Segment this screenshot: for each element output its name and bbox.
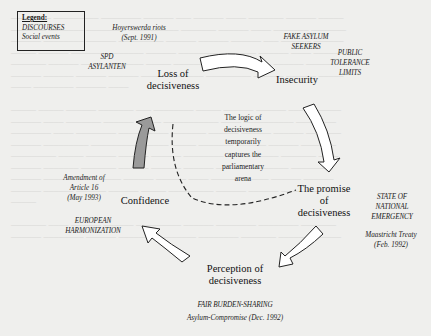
annotation-line: Amendment of	[56, 173, 112, 183]
annotation-line: EUROPEAN	[55, 216, 131, 226]
annotation-line: (May 1993)	[56, 193, 112, 203]
center-line: arena	[205, 173, 281, 185]
node-text: decisiveness	[200, 275, 270, 287]
legend-title: Legend:	[22, 14, 80, 24]
discourse-spd-asylanten: SPD ASYLANTEN	[82, 52, 132, 72]
center-caption: The logic of decisiveness temporarily ca…	[205, 112, 281, 185]
arrow-perception-to-confidence	[142, 226, 190, 262]
annotation-line: (Sept. 1991)	[104, 33, 174, 43]
annotation-line: EMERGENCY	[362, 212, 422, 222]
legend-box: Legend: DISCOURSES Social events	[17, 11, 85, 51]
center-line: temporarily	[205, 136, 281, 148]
node-text: Insecurity	[270, 74, 324, 86]
legend-item-social-events: Social events	[22, 33, 80, 43]
node-text: Loss of	[142, 68, 204, 80]
discourse-state-of-national-emergency: STATE OF NATIONAL EMERGENCY	[362, 192, 422, 222]
annotation-line: Hoyerswerda riots	[104, 23, 174, 33]
arrow-promise-to-perception	[279, 226, 323, 267]
arrow-insecurity-to-promise	[303, 104, 340, 172]
discourse-public-tolerance-limits: PUBLIC TOLERANCE LIMITS	[318, 48, 382, 78]
node-text: The promise	[292, 183, 356, 195]
legend-item-discourses: DISCOURSES	[22, 24, 80, 34]
annotation-line: TOLERANCE	[318, 58, 382, 68]
center-line: parliamentary	[205, 161, 281, 173]
node-loss-of-decisiveness: Loss of decisiveness	[142, 68, 204, 92]
node-text: decisiveness	[142, 80, 204, 92]
node-text: Confidence	[115, 195, 175, 207]
discourse-fair-burden-sharing: FAIR BURDEN-SHARING	[180, 300, 290, 310]
annotation-line: Asylum-Compromise (Dec. 1992)	[170, 313, 300, 323]
annotation-line: FAKE ASYLUM	[274, 32, 338, 42]
node-text: Perception of	[200, 263, 270, 275]
annotation-line: FAIR BURDEN-SHARING	[180, 300, 290, 310]
discourse-european-harmonization: EUROPEAN HARMONIZATION	[55, 216, 131, 236]
node-text: decisiveness	[292, 207, 356, 219]
event-maastricht-treaty: Maastricht Treaty (Feb. 1992)	[356, 230, 426, 250]
center-line: decisiveness	[205, 124, 281, 136]
node-insecurity: Insecurity	[270, 74, 324, 86]
center-line: The logic of	[205, 112, 281, 124]
node-promise-of-decisiveness: The promise of decisiveness	[292, 183, 356, 219]
event-amendment-article-16: Amendment of Article 16 (May 1993)	[56, 173, 112, 203]
node-perception-of-decisiveness: Perception of decisiveness	[200, 263, 270, 287]
scanned-page: ________ _________ ________ ______ ___ _…	[0, 0, 431, 336]
annotation-line: ASYLANTEN	[82, 62, 132, 72]
node-text: of	[292, 195, 356, 207]
annotation-line: STATE OF	[362, 192, 422, 202]
event-asylum-compromise: Asylum-Compromise (Dec. 1992)	[170, 313, 300, 323]
annotation-line: Maastricht Treaty	[356, 230, 426, 240]
annotation-line: LIMITS	[318, 68, 382, 78]
annotation-line: Article 16	[56, 183, 112, 193]
event-hoyerswerda-riots: Hoyerswerda riots (Sept. 1991)	[104, 23, 174, 43]
annotation-line: (Feb. 1992)	[356, 240, 426, 250]
center-line: captures the	[205, 149, 281, 161]
arrow-loss-to-insecurity	[200, 54, 275, 78]
node-confidence: Confidence	[115, 195, 175, 207]
arrow-confidence-to-loss	[133, 117, 155, 168]
annotation-line: PUBLIC	[318, 48, 382, 58]
annotation-line: SPD	[82, 52, 132, 62]
annotation-line: HARMONIZATION	[55, 226, 131, 236]
annotation-line: NATIONAL	[362, 202, 422, 212]
